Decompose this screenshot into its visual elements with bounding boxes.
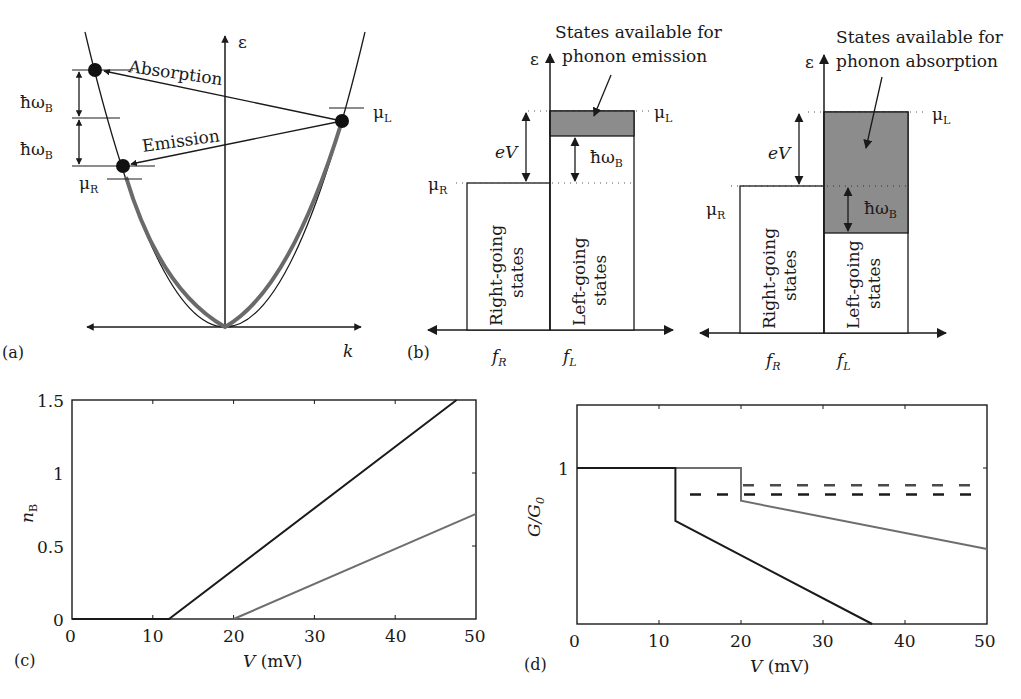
mu-l-label: μL (373, 102, 392, 125)
annotation-line2: phonon absorption (836, 51, 998, 71)
y-axis-label: nB (17, 504, 40, 523)
k-label: k (343, 341, 353, 361)
y-tick-label: 0 (53, 610, 64, 630)
hw-label-2: ħωB (20, 139, 53, 162)
eV-label: eV (768, 143, 792, 163)
mu-r-label: μR (706, 199, 726, 222)
right-going-label-2: states (507, 247, 527, 298)
epsilon-label: ε (805, 52, 814, 72)
x-tick-label: 20 (730, 631, 752, 651)
x-tick-label: 40 (894, 631, 916, 651)
f-r-label: fR (764, 350, 781, 373)
x-tick-label: 0 (65, 626, 76, 646)
right-going-label: Right-going (486, 225, 506, 326)
x-ticks (659, 405, 987, 624)
epsilon-label: ε (530, 49, 539, 69)
emission-shaded-states (550, 111, 634, 136)
state-dot-absorption (88, 63, 102, 77)
annotation-line1: States available for (555, 22, 723, 42)
f-r-label: fR (490, 346, 507, 369)
mu-r-label: μR (428, 174, 448, 197)
panel-b-emission: States available for phonon emission ε μ… (407, 22, 723, 369)
x-tick-label: 50 (974, 631, 996, 651)
annotation-line1: States available for (836, 27, 1004, 47)
right-going-label-2: states (780, 250, 800, 301)
panel-d-chart: 0 10 20 30 40 50 1 V (mV) G/G0 (d) (524, 405, 996, 676)
series-dark (72, 400, 457, 619)
x-tick-label: 30 (304, 626, 326, 646)
epsilon-label: ε (238, 32, 247, 52)
y-tick-label: 0.5 (37, 537, 64, 557)
state-dot-emission (116, 159, 130, 173)
series-gray-solid (577, 468, 987, 549)
panel-a: Absorption Emission ε k ħωB ħωB μR μL (a… (2, 32, 392, 362)
x-tick-label: 50 (464, 626, 486, 646)
left-going-label: Left-going (569, 237, 589, 326)
plot-frame (72, 400, 476, 619)
x-tick-label: 30 (812, 631, 834, 651)
mu-r-label: μR (79, 173, 99, 196)
y-tick-label: 1 (53, 464, 64, 484)
figure: Absorption Emission ε k ħωB ħωB μR μL (a… (0, 0, 1021, 699)
left-going-label-2: states (590, 255, 610, 306)
panel-a-label: (a) (2, 343, 24, 362)
y-tick-label: 1 (558, 459, 569, 479)
left-going-label-2: states (864, 258, 884, 309)
x-axis-label: V (mV) (243, 651, 302, 671)
f-l-label: fL (561, 346, 577, 369)
plot-frame (577, 405, 987, 624)
emission-label: Emission (141, 125, 221, 156)
series-gray (234, 514, 476, 619)
mu-l-label: μL (932, 104, 951, 127)
series-dark-solid (577, 468, 872, 624)
absorption-arrow (104, 71, 342, 121)
hw-label-1: ħωB (20, 92, 53, 115)
panel-b-label: (b) (407, 343, 430, 362)
x-tick-label: 10 (648, 631, 670, 651)
x-tick-label: 40 (385, 626, 407, 646)
mu-l-label: μL (654, 102, 673, 125)
state-dot-mu-l (335, 114, 349, 128)
panel-c-label: (c) (14, 651, 35, 670)
annotation-line2: phonon emission (562, 46, 707, 66)
left-going-label: Left-going (843, 240, 863, 329)
annotation-pointer (594, 75, 611, 116)
x-tick-label: 10 (142, 626, 164, 646)
x-tick-label: 0 (569, 631, 580, 651)
panel-d-label: (d) (524, 655, 547, 674)
x-axis-label: V (mV) (750, 656, 809, 676)
eV-label: eV (495, 142, 519, 162)
panel-c-chart: 0 10 20 30 40 50 0 0.5 1 1.5 V (mV) nB (… (14, 391, 486, 671)
x-tick-label: 20 (223, 626, 245, 646)
y-tick-label: 1.5 (37, 391, 64, 411)
absorption-label: Absorption (126, 56, 223, 89)
panel-b-absorption: States available for phonon absorption ε… (700, 27, 1004, 373)
right-going-label: Right-going (759, 228, 779, 329)
y-axis-label: G/G0 (524, 497, 547, 537)
f-l-label: fL (835, 350, 851, 373)
